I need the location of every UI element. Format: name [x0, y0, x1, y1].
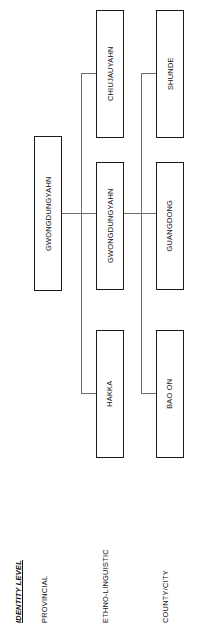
connector-spine-to-baoon [141, 393, 157, 394]
level-label-provincial: PROVINCIAL [40, 576, 49, 623]
node-label: BAO ON [166, 379, 173, 409]
axis-title: IDENTITY LEVEL [14, 560, 23, 623]
level-label-county-city: COUNTY/CITY [161, 570, 170, 623]
connector-spine-to-hakka [81, 393, 97, 394]
connector-spine-to-guangdong [141, 213, 157, 214]
node-label: SHUNDE [166, 58, 173, 91]
node-label: GWONGDUNGYAHN [106, 189, 113, 264]
connector-ethno-to-spine [124, 213, 142, 214]
node-label: HAKKA [106, 381, 113, 407]
node-ethno-chiujauyahn[interactable]: CHIUJAUYAHN [96, 10, 124, 138]
node-provincial-gwongdungyahn[interactable]: GWONGDUNGYAHN [34, 136, 62, 291]
node-county-guangdong[interactable]: GUANGDONG [156, 162, 184, 290]
connector-provincial-to-spine [62, 213, 82, 214]
node-label: GWONGDUNGYAHN [44, 176, 51, 251]
diagram-canvas: GWONGDUNGYAHN CHIUJAUYAHN GWONGDUNGYAHN … [0, 0, 200, 631]
node-ethno-gwongdungyahn[interactable]: GWONGDUNGYAHN [96, 162, 124, 290]
node-label: CHIUJAUYAHN [106, 47, 113, 102]
connector-spine-ethno [81, 73, 82, 394]
level-label-ethno-linguistic: ETHNO-LINGUISTIC [101, 549, 110, 623]
node-ethno-hakka[interactable]: HAKKA [96, 330, 124, 458]
connector-spine-to-gwongdungyahn [81, 213, 97, 214]
node-county-shunde[interactable]: SHUNDE [156, 10, 184, 138]
connector-spine-county [141, 73, 142, 394]
node-label: GUANGDONG [166, 200, 173, 252]
connector-spine-to-shunde [141, 73, 157, 74]
node-county-baoon[interactable]: BAO ON [156, 330, 184, 458]
connector-spine-to-chiujauyahn [81, 73, 97, 74]
